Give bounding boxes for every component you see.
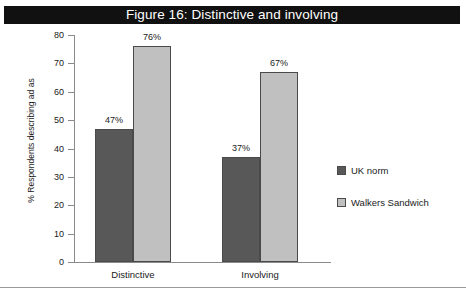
y-axis-tick-label-wrap: 70	[38, 59, 64, 68]
y-axis-tick-label: 30	[42, 173, 64, 182]
legend-item-walkers-sandwich[interactable]: Walkers Sandwich	[337, 197, 429, 208]
footer-rule	[0, 287, 466, 288]
bar-distinctive-uk-norm	[95, 129, 133, 262]
y-axis-tick-label: 60	[42, 88, 64, 97]
legend-item-uk-norm[interactable]: UK norm	[337, 165, 429, 176]
figure-banner: Figure 16: Distinctive and involving	[4, 6, 460, 24]
y-axis-tick-label: 40	[42, 145, 64, 154]
bar-chart: % Respondents describing ad as 807060504…	[0, 24, 466, 286]
bar-value-label: 47%	[94, 116, 134, 125]
x-axis-line	[74, 262, 331, 263]
y-axis-tick-label: 50	[42, 116, 64, 125]
bars-layer: 47%76%37%67%	[74, 35, 331, 262]
y-axis-tick-mark	[68, 262, 74, 263]
bar-involving-walkers-sandwich	[260, 72, 298, 262]
bar-involving-uk-norm	[222, 157, 260, 262]
bar-value-label: 76%	[132, 33, 172, 42]
bar-value-label: 37%	[221, 144, 261, 153]
legend-item-label: UK norm	[351, 166, 388, 176]
y-axis-tick-label: 10	[42, 230, 64, 239]
y-axis-tick-label: 80	[42, 31, 64, 40]
y-axis-tick-label-wrap: 80	[38, 31, 64, 40]
y-axis-tick-label-wrap: 20	[38, 201, 64, 210]
y-axis-tick-label-wrap: 40	[38, 145, 64, 154]
bar-distinctive-walkers-sandwich	[133, 46, 171, 262]
legend-swatch-icon	[337, 198, 346, 207]
y-axis-tick-label: 20	[42, 201, 64, 210]
legend-swatch-icon	[337, 166, 346, 175]
y-axis-tick-label-wrap: 10	[38, 230, 64, 239]
y-axis-tick-label-wrap: 50	[38, 116, 64, 125]
figure-title: Figure 16: Distinctive and involving	[126, 8, 338, 23]
y-axis-tick-label-wrap: 0	[38, 258, 64, 267]
y-axis-tick-label: 70	[42, 59, 64, 68]
y-axis-tick-label-wrap: 60	[38, 88, 64, 97]
x-axis-category-label: Involving	[205, 270, 315, 280]
y-axis-title: % Respondents describing ad as	[27, 61, 36, 221]
chart-legend: UK norm Walkers Sandwich	[337, 165, 429, 229]
y-axis-tick-label: 0	[42, 258, 64, 267]
x-axis-category-label: Distinctive	[78, 270, 188, 280]
legend-item-label: Walkers Sandwich	[351, 198, 429, 208]
bar-value-label: 67%	[259, 59, 299, 68]
y-axis-tick-label-wrap: 30	[38, 173, 64, 182]
